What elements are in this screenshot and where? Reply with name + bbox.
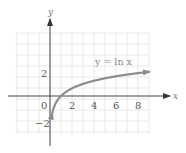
tick-x-2: 2 bbox=[69, 100, 75, 111]
curve-label: y = ln x bbox=[94, 56, 133, 67]
x-axis-label: x bbox=[173, 91, 178, 101]
y-axis-label: y bbox=[47, 7, 54, 17]
tick-y-neg2: −2 bbox=[35, 118, 50, 129]
tick-x-8: 8 bbox=[135, 100, 141, 111]
tick-y-2: 2 bbox=[41, 68, 47, 79]
tick-x-6: 6 bbox=[113, 100, 119, 111]
tick-x-4: 4 bbox=[91, 100, 97, 111]
tick-origin: 0 bbox=[41, 100, 47, 111]
ln-chart: y x 0 2 4 6 8 2 −2 y = ln x bbox=[0, 0, 186, 153]
